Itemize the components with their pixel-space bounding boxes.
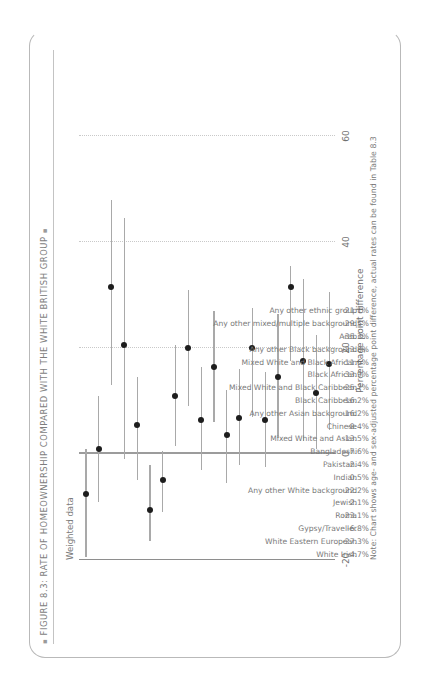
category-value-label: -23.1% [329,511,369,520]
category-label: Gypsy/Traveller [157,524,357,533]
figure-title: FIGURE 8.3: RATE OF HOMEOWNERSHIP COMPAR… [39,236,49,635]
category-label: Bangladeshi [157,447,357,456]
category-label: Chinese [157,421,357,430]
chart-note: Note: Chart shows age- and sex-adjusted … [369,136,378,560]
category-label: Indian [157,472,357,481]
category-value-label: -4.7% [329,549,369,558]
x-tick-label-60: 60 [341,121,351,151]
category-label: Pakistani [157,460,357,469]
category-value-label: -16.2% [329,408,369,417]
title-divider [53,50,54,644]
category-value-label: -7.6% [329,447,369,456]
category-value-label: -13.5% [329,434,369,443]
category-label: Mixed White and Asian [157,434,357,443]
category-label: Black Caribbean [157,396,357,405]
category-label: Black African [157,370,357,379]
category-label: Roma [157,511,357,520]
category-label: Any other Black background [157,344,357,353]
figure-page: ▪ FIGURE 8.3: RATE OF HOMEOWNERSHIP COMP… [0,0,425,700]
category-label: White Irish [157,549,357,558]
category-value-label: -2.4% [329,460,369,469]
title-bullet-right: ▪ [41,228,49,233]
x-tick-label-40: 40 [341,227,351,257]
x-axis-title: Percentage point difference [355,269,365,393]
category-label: Any other ethnic group [157,306,357,315]
category-value-label: -6.8% [329,524,369,533]
category-value-label: -8.4% [329,421,369,430]
category-label: Mixed White and Black African [157,357,357,366]
title-bullet-left: ▪ [41,639,49,644]
category-value-label: 0.5% [329,472,369,481]
category-label: Arab [157,332,357,341]
category-label: Any other White background [157,485,357,494]
category-value-label: -16.2% [329,396,369,405]
chart-subtitle: Weighted data [65,497,75,560]
category-label: White Eastern European [157,536,357,545]
category-label: Any other Asian background [157,408,357,417]
category-value-label: -27.3% [329,536,369,545]
figure-title-row: ▪ FIGURE 8.3: RATE OF HOMEOWNERSHIP COMP… [39,228,49,644]
category-value-label: 2.1% [329,498,369,507]
category-label: Any other mixed/multiple background [157,319,357,328]
category-label: Jewish [157,498,357,507]
category-label: Mixed White and Black Caribbean [157,383,357,392]
category-value-label: -22.2% [329,485,369,494]
rotated-figure-container: ▪ FIGURE 8.3: RATE OF HOMEOWNERSHIP COMP… [17,20,409,680]
